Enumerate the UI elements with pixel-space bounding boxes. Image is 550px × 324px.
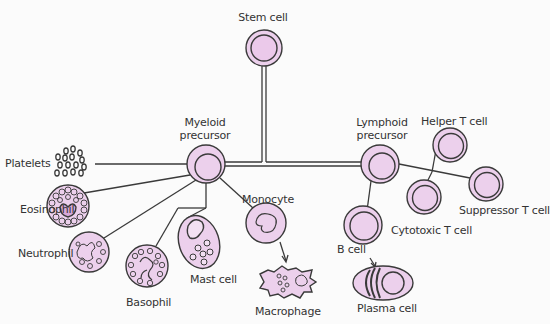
myeloid-precursor-node (187, 145, 225, 183)
monocyte-label: Monocyte (242, 193, 294, 206)
stem-cell-node (246, 30, 282, 66)
stem-trunk-connector (225, 66, 361, 166)
cytotoxic-t-cell-label: Cytotoxic T cell (391, 224, 472, 237)
mast-cell-label: Mast cell (190, 273, 237, 286)
diagram-graphics (0, 0, 550, 324)
arrow-bcell-to-plasma (370, 258, 376, 267)
hematopoiesis-diagram: Stem cell Myeloid precursor Lymphoid pre… (0, 0, 550, 324)
cytotoxic-t-cell-node (407, 180, 441, 214)
basophil-node (126, 245, 168, 287)
myeloid-branches (84, 164, 253, 246)
plasma-cell-label: Plasma cell (357, 302, 417, 315)
suppressor-t-cell-label: Suppressor T cell (459, 204, 550, 217)
plasma-cell-node (353, 266, 413, 300)
helper-t-cell-label: Helper T cell (421, 115, 487, 128)
platelets-label: Platelets (5, 157, 51, 170)
lymphoid-label-line2: precursor (357, 129, 408, 142)
eosinophil-label: Eosinophil (20, 203, 74, 216)
myeloid-label-line2: precursor (180, 129, 231, 142)
neutrophil-node (69, 232, 109, 272)
arrow-monocyte-to-macrophage (280, 242, 288, 262)
b-cell-node (344, 206, 382, 244)
monocyte-node (246, 203, 286, 243)
platelets-node (55, 146, 86, 176)
basophil-label: Basophil (126, 296, 171, 309)
suppressor-t-cell-node (469, 167, 503, 201)
mast-cell-node (172, 210, 227, 274)
macrophage-node (260, 266, 316, 298)
helper-t-cell-node (433, 128, 467, 162)
b-cell-label: B cell (337, 243, 366, 256)
macrophage-label: Macrophage (255, 305, 321, 318)
lymphoid-label-line1: Lymphoid (356, 116, 407, 129)
neutrophil-label: Neutrophil (18, 247, 73, 260)
lymphoid-precursor-node (361, 145, 399, 183)
stem-cell-label: Stem cell (238, 11, 287, 24)
myeloid-label-line1: Myeloid (184, 116, 225, 129)
